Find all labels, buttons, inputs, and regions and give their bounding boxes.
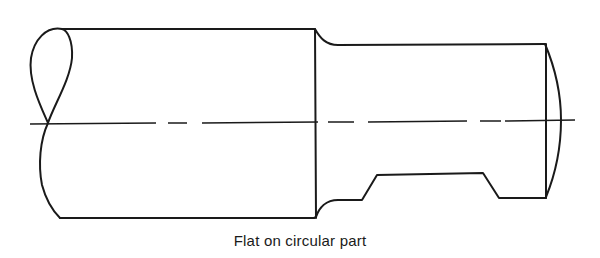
technical-drawing	[0, 0, 600, 258]
flat-profile	[314, 173, 546, 218]
figure-caption: Flat on circular part	[0, 232, 600, 249]
shoulder-line	[315, 29, 316, 218]
centerline	[30, 120, 575, 124]
small-diameter-top-edge	[313, 29, 545, 45]
